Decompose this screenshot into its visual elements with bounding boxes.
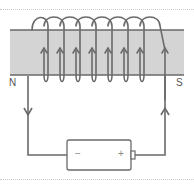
battery-negative-label: − [75, 148, 81, 159]
battery-positive-label: + [118, 148, 124, 159]
iron-core [10, 30, 184, 75]
circuit-drawing [0, 0, 194, 187]
south-pole-label: S [176, 77, 183, 88]
right-wire [135, 76, 165, 155]
left-wire [28, 76, 67, 155]
solenoid-diagram: N S − + [0, 0, 194, 187]
north-pole-label: N [9, 77, 16, 88]
